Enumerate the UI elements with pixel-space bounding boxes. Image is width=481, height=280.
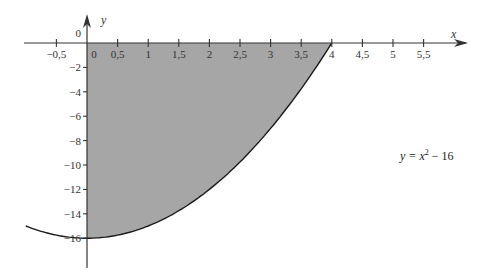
equation-annotation: y = x2 − 16 — [399, 148, 454, 163]
shaded-area — [87, 43, 332, 238]
y-tick-label: −10 — [64, 159, 82, 171]
y-tick-label: −16 — [64, 232, 82, 244]
x-tick-label: 0 — [91, 48, 97, 60]
x-axis-label: x — [450, 27, 457, 41]
x-tick-label: 5,5 — [417, 48, 431, 60]
x-tick-label: 0,5 — [111, 48, 125, 60]
equation-lhs: y = x — [399, 149, 425, 163]
x-tick-label: 1,5 — [172, 48, 186, 60]
chart: −0,500,511,522,533,544,555,5 0−2−4−6−8−1… — [0, 0, 481, 280]
x-axis: −0,500,511,522,533,544,555,5 — [24, 39, 468, 60]
x-tick-label: 5 — [390, 48, 396, 60]
y-tick-label: −12 — [64, 183, 81, 195]
x-tick-label: 3,5 — [294, 48, 308, 60]
x-tick-label: 1 — [145, 48, 151, 60]
x-tick-label: 4 — [329, 48, 335, 60]
y-tick-label: −6 — [69, 110, 81, 122]
y-axis: 0−2−4−6−8−10−12−14−16 — [64, 14, 91, 268]
y-tick-label: −14 — [64, 208, 82, 220]
y-axis-label: y — [100, 13, 107, 27]
x-tick-label: −0,5 — [46, 48, 66, 60]
y-tick-label: −2 — [69, 61, 81, 73]
x-tick-label: 2,5 — [233, 48, 247, 60]
x-tick-label: 2 — [207, 48, 213, 60]
y-tick-label: 0 — [76, 27, 82, 39]
x-tick-label: 3 — [268, 48, 274, 60]
x-tick-label: 4,5 — [356, 48, 370, 60]
y-tick-label: −8 — [69, 135, 81, 147]
equation-rhs: − 16 — [429, 149, 454, 163]
y-tick-label: −4 — [69, 86, 81, 98]
